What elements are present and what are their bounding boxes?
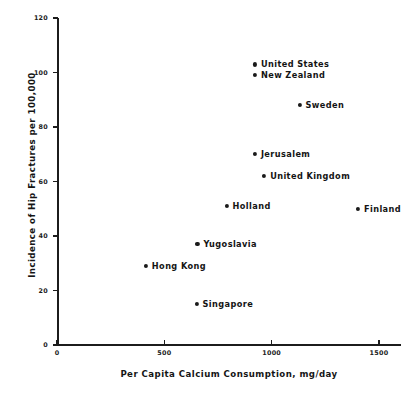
data-point-label: Hong Kong xyxy=(152,261,206,271)
data-point-label: Sweden xyxy=(306,100,345,110)
y-tick-label: 120 xyxy=(14,14,48,22)
x-axis-line xyxy=(57,344,401,346)
data-point-marker xyxy=(262,174,266,178)
x-tick-mark xyxy=(56,340,58,345)
data-point-marker xyxy=(224,204,228,208)
x-tick-label: 500 xyxy=(144,349,184,357)
y-tick-mark xyxy=(53,181,58,183)
y-tick-mark xyxy=(53,126,58,128)
x-tick-mark xyxy=(271,340,273,345)
data-point-label: United Kingdom xyxy=(270,171,350,181)
data-point-label: Singapore xyxy=(203,299,254,309)
data-point-marker xyxy=(195,242,199,246)
data-point-label: Jerusalem xyxy=(261,149,310,159)
data-point-marker xyxy=(253,152,257,156)
data-point-marker xyxy=(253,62,257,66)
data-point-marker xyxy=(356,207,360,211)
data-point-marker xyxy=(297,103,301,107)
x-tick-label: 0 xyxy=(37,349,77,357)
x-tick-mark xyxy=(164,340,166,345)
x-tick-mark xyxy=(378,340,380,345)
y-tick-mark xyxy=(53,290,58,292)
y-axis-title: Incidence of Hip Fractures per 100,000 xyxy=(27,25,37,325)
y-tick-mark xyxy=(53,72,58,74)
data-point-label: Holland xyxy=(233,201,271,211)
data-point-label: United States xyxy=(261,59,329,69)
x-tick-label: 1500 xyxy=(359,349,399,357)
data-point-label: Finland xyxy=(364,204,401,214)
x-axis-title: Per Capita Calcium Consumption, mg/day xyxy=(57,369,401,379)
data-point-label: Yugoslavia xyxy=(203,239,257,249)
data-point-marker xyxy=(253,73,257,77)
y-tick-mark xyxy=(53,17,58,19)
scatter-plot-figure: 020406080100120 050010001500 United Stat… xyxy=(0,0,414,395)
x-tick-label: 1000 xyxy=(252,349,292,357)
y-tick-mark xyxy=(53,235,58,237)
data-point-marker xyxy=(144,264,148,268)
data-point-marker xyxy=(194,302,198,306)
data-point-label: New Zealand xyxy=(261,70,325,80)
